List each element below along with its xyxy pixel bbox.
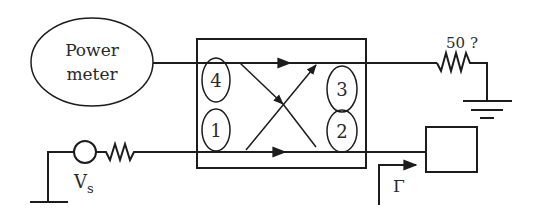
port-4: 4 xyxy=(202,58,230,102)
coupler-diagram: Power meter 4 1 3 2 xyxy=(0,0,538,218)
termination-label: 50 ? xyxy=(446,34,478,52)
svg-text:1: 1 xyxy=(210,120,221,141)
source-resistor xyxy=(96,144,140,160)
ground-icon xyxy=(463,101,512,118)
load-box xyxy=(426,127,477,172)
port-3: 3 xyxy=(327,66,357,112)
svg-text:2: 2 xyxy=(336,121,347,142)
termination-resistor: 50 ? xyxy=(437,34,487,101)
svg-text:4: 4 xyxy=(210,70,221,91)
directional-coupler: 4 1 3 2 xyxy=(197,39,366,168)
voltage-source: Vs xyxy=(30,141,140,202)
gamma-label: Γ xyxy=(393,176,405,196)
port-1: 1 xyxy=(202,109,230,151)
port-2: 2 xyxy=(327,110,357,152)
source-label: Vs xyxy=(73,171,94,196)
power-meter-label-line2: meter xyxy=(66,64,118,84)
power-meter-label-line1: Power xyxy=(65,40,120,60)
svg-text:3: 3 xyxy=(336,79,347,100)
reflection-marker: Γ xyxy=(379,165,416,205)
power-meter: Power meter xyxy=(31,18,153,106)
coupling-arrow-down xyxy=(240,63,283,104)
